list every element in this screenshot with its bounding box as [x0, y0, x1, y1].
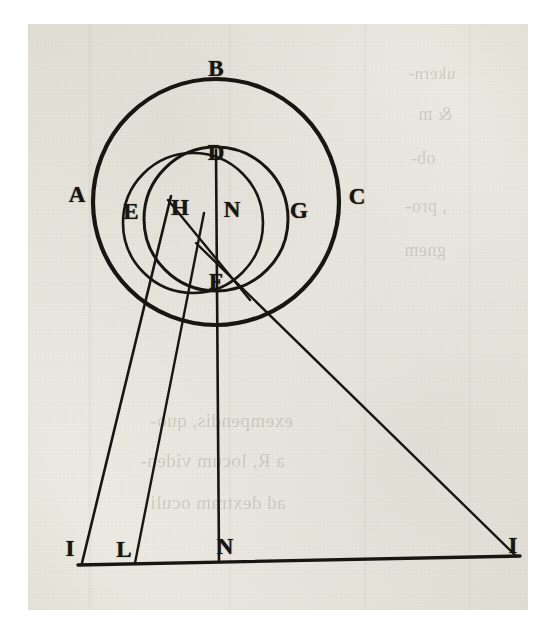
- baseline: [78, 556, 520, 565]
- ray-F-to-I-right: [196, 243, 516, 556]
- ray-F-to-L: [135, 213, 204, 563]
- geometric-figure: [0, 0, 554, 643]
- screenshot-root: ukern-& mob-, pro-gnemexempendis, quo-a …: [0, 0, 554, 643]
- axis-D-to-N: [216, 150, 219, 560]
- ray-H-to-I: [82, 196, 171, 563]
